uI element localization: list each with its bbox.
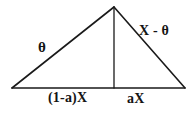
triangle-left-side <box>12 7 114 88</box>
label-base-left-segment: (1-a)X <box>48 91 87 105</box>
triangle-diagram: θ X - θ (1-a)X aX <box>0 0 194 114</box>
label-base-right-segment: aX <box>127 92 145 106</box>
triangle-right-side <box>114 7 185 88</box>
label-left-slope-theta: θ <box>38 40 46 55</box>
label-right-slope-x-minus-theta: X - θ <box>139 24 169 38</box>
triangle-diagram-svg <box>0 0 194 114</box>
